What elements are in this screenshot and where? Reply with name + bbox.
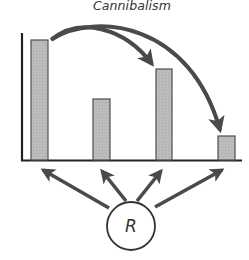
arrow-r-to-bar4 <box>155 170 222 207</box>
arrow-r-to-bar3 <box>137 171 161 201</box>
curved-arrow-bar1-to-bar4 <box>52 26 220 130</box>
cannibalism-diagram: Cannibalism R <box>0 0 249 260</box>
resource-label: R <box>125 216 137 236</box>
diagram-graphic: R <box>0 0 249 260</box>
arrow-r-to-bar2 <box>102 171 126 201</box>
bar-1 <box>31 40 48 160</box>
arrow-r-to-bar1 <box>43 170 109 208</box>
bar-2 <box>93 99 110 160</box>
bar-4 <box>218 136 235 160</box>
bar-3 <box>156 69 172 160</box>
